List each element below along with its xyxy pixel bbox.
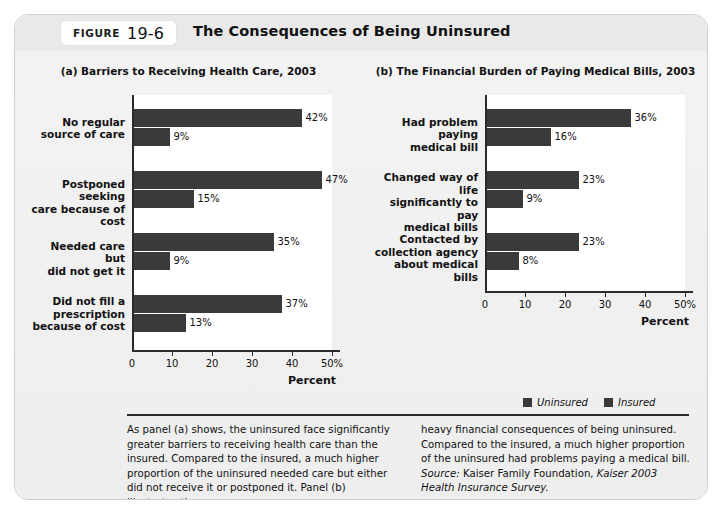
category-label-line: Changed way of life <box>370 171 478 196</box>
x-axis-tick-label: 30 <box>246 358 259 369</box>
category-label: Had problem payingmedical bill <box>370 116 478 154</box>
figure-title: The Consequences of Being Uninsured <box>193 23 511 39</box>
legend-item-uninsured: Uninsured <box>523 397 588 408</box>
bar-insured <box>134 190 194 208</box>
category-label-line: collection agency <box>370 246 478 259</box>
figure-caption: As panel (a) shows, the uninsured face s… <box>127 423 693 493</box>
bar-uninsured <box>134 109 302 127</box>
bar-value-label: 36% <box>635 112 657 123</box>
caption-source: Source: Kaiser Family Foundation, Kaiser… <box>421 467 693 496</box>
x-axis-tick-label: 50% <box>321 358 343 369</box>
legend-swatch-uninsured <box>523 398 532 407</box>
bar-value-label: 37% <box>286 298 308 309</box>
bar-insured <box>134 314 186 332</box>
category-label-line: because of cost <box>29 320 125 333</box>
x-axis-tick-label: 10 <box>519 299 532 310</box>
bar-insured <box>487 252 519 270</box>
x-axis-title: Percent <box>641 315 689 328</box>
x-axis-tick <box>645 292 646 297</box>
source-text: Kaiser Family Foundation, <box>463 468 594 479</box>
bar-uninsured <box>487 171 579 189</box>
x-axis-tick <box>685 292 686 297</box>
figure-number-badge: FIGURE 19-6 <box>61 21 176 45</box>
bar-value-label: 15% <box>198 193 220 204</box>
figure-number: 19-6 <box>127 24 164 43</box>
caption-column-right: heavy financial consequences of being un… <box>421 423 693 493</box>
caption-text-right: heavy financial consequences of being un… <box>421 423 693 467</box>
caption-text-left: As panel (a) shows, the uninsured face s… <box>127 423 399 500</box>
category-label-line: prescription <box>29 308 125 321</box>
category-label-line: Did not fill a <box>29 295 125 308</box>
bar-value-label: 9% <box>174 255 190 266</box>
bar-value-label: 47% <box>326 174 348 185</box>
category-label: Changed way of lifesignificantly to paym… <box>370 171 478 234</box>
legend-item-insured: Insured <box>604 397 655 408</box>
bar-value-label: 9% <box>174 131 190 142</box>
x-axis-title: Percent <box>288 374 336 387</box>
figure-label-word: FIGURE <box>73 27 120 39</box>
source-label: Source: <box>421 468 460 479</box>
x-axis-tick <box>292 351 293 356</box>
x-axis-tick-label: 20 <box>559 299 572 310</box>
bar-uninsured <box>134 233 274 251</box>
bar-uninsured <box>487 233 579 251</box>
category-label-line: about medical bills <box>370 258 478 283</box>
bar-uninsured <box>134 295 282 313</box>
figure-header: FIGURE 19-6 The Consequences of Being Un… <box>15 15 708 51</box>
panel-b: (b) The Financial Burden of Paying Medic… <box>362 51 708 386</box>
x-axis-tick <box>525 292 526 297</box>
category-label: Did not fill aprescriptionbecause of cos… <box>29 295 125 333</box>
category-label-line: significantly to pay <box>370 196 478 221</box>
x-axis-tick-label: 0 <box>482 299 488 310</box>
panel-b-title: (b) The Financial Burden of Paying Medic… <box>362 65 708 77</box>
bar-uninsured <box>134 171 322 189</box>
panel-a-title: (a) Barriers to Receiving Health Care, 2… <box>15 65 362 77</box>
x-axis-tick <box>212 351 213 356</box>
category-label-line: No regular <box>29 116 125 129</box>
bar-uninsured <box>487 109 631 127</box>
bar-insured <box>134 128 170 146</box>
x-axis-tick <box>605 292 606 297</box>
x-axis-line <box>485 291 693 293</box>
category-label-line: Needed care but <box>29 240 125 265</box>
category-label-line: medical bills <box>370 221 478 234</box>
category-label-line: source of care <box>29 128 125 141</box>
x-axis-tick-label: 10 <box>166 358 179 369</box>
caption-column-left: As panel (a) shows, the uninsured face s… <box>127 423 399 493</box>
category-label-line: care because of cost <box>29 203 125 228</box>
x-axis-tick <box>172 351 173 356</box>
x-axis-tick <box>252 351 253 356</box>
legend-label-uninsured: Uninsured <box>537 397 588 408</box>
category-label-line: Postponed seeking <box>29 178 125 203</box>
bar-insured <box>487 128 551 146</box>
bar-value-label: 8% <box>523 255 539 266</box>
category-label-line: medical bill <box>370 141 478 154</box>
figure-card: FIGURE 19-6 The Consequences of Being Un… <box>14 14 708 500</box>
category-label-line: Had problem paying <box>370 116 478 141</box>
bar-value-label: 35% <box>278 236 300 247</box>
bar-value-label: 13% <box>190 317 212 328</box>
category-label: Needed care butdid not get it <box>29 240 125 278</box>
bar-insured <box>487 190 523 208</box>
category-label-line: did not get it <box>29 265 125 278</box>
figure-page: FIGURE 19-6 The Consequences of Being Un… <box>0 0 724 519</box>
legend-label-insured: Insured <box>618 397 655 408</box>
category-label: No regularsource of care <box>29 116 125 141</box>
bar-value-label: 16% <box>555 131 577 142</box>
x-axis-tick-label: 30 <box>599 299 612 310</box>
x-axis-tick <box>332 351 333 356</box>
chart-legend: Uninsured Insured <box>523 397 655 408</box>
bar-value-label: 9% <box>527 193 543 204</box>
x-axis-tick <box>565 292 566 297</box>
legend-swatch-insured <box>604 398 613 407</box>
panel-a: (a) Barriers to Receiving Health Care, 2… <box>15 51 362 386</box>
bar-insured <box>134 252 170 270</box>
category-label: Contacted bycollection agencyabout medic… <box>370 233 478 283</box>
x-axis-tick-label: 0 <box>129 358 135 369</box>
charts-region: (a) Barriers to Receiving Health Care, 2… <box>15 51 708 386</box>
x-axis-tick-label: 50% <box>674 299 696 310</box>
x-axis-tick-label: 40 <box>286 358 299 369</box>
x-axis-line <box>132 350 340 352</box>
bar-value-label: 23% <box>583 174 605 185</box>
category-label: Postponed seekingcare because of cost <box>29 178 125 228</box>
